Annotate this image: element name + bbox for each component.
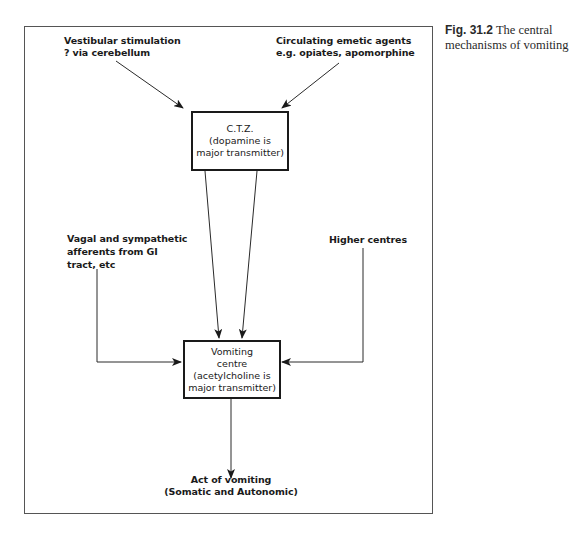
vc-line3: (acetylcholine is — [193, 370, 270, 382]
arrow-ctz-to-vc-right — [242, 171, 257, 338]
vestibular-line2: ? via cerebellum — [64, 47, 181, 59]
vagal-line3: tract, etc — [67, 258, 187, 271]
ctz-line3: major transmitter) — [196, 147, 284, 159]
vc-line4: major transmitter) — [188, 382, 276, 394]
vc-line2: centre — [217, 358, 247, 370]
arrow-emetic-to-ctz — [282, 63, 339, 108]
arrow-higher-centres-to-vc — [282, 248, 363, 362]
output-line2: (Somatic and Autonomic) — [156, 486, 306, 498]
vestibular-line1: Vestibular stimulation — [64, 35, 181, 47]
act-of-vomiting-label: Act of vomiting (Somatic and Autonomic) — [156, 474, 306, 498]
ctz-box: C.T.Z. (dopamine is major transmitter) — [191, 111, 289, 171]
vagal-line1: Vagal and sympathetic — [67, 232, 187, 245]
ctz-line2: (dopamine is — [209, 135, 271, 147]
arrow-vagal-to-vc — [97, 269, 181, 362]
arrow-ctz-to-vc-left — [205, 171, 219, 338]
emetic-agents-label: Circulating emetic agents e.g. opiates, … — [276, 35, 415, 59]
figure-number: Fig. 31.2 — [445, 23, 493, 37]
arrow-vestibular-to-ctz — [116, 61, 183, 108]
vagal-line2: afferents from GI — [67, 245, 187, 258]
emetic-line1: Circulating emetic agents — [276, 35, 415, 47]
higher-centres-line1: Higher centres — [329, 234, 407, 246]
output-line1: Act of vomiting — [156, 474, 306, 486]
ctz-title: C.T.Z. — [227, 123, 254, 135]
higher-centres-label: Higher centres — [329, 234, 407, 246]
vomiting-centre-box: Vomiting centre (acetylcholine is major … — [183, 340, 281, 399]
vagal-afferents-label: Vagal and sympathetic afferents from GI … — [67, 232, 187, 271]
emetic-line2: e.g. opiates, apomorphine — [276, 47, 415, 59]
vc-line1: Vomiting — [211, 346, 253, 358]
vestibular-label: Vestibular stimulation ? via cerebellum — [64, 35, 181, 59]
figure-caption: Fig. 31.2 The central mechanisms of vomi… — [445, 23, 581, 53]
